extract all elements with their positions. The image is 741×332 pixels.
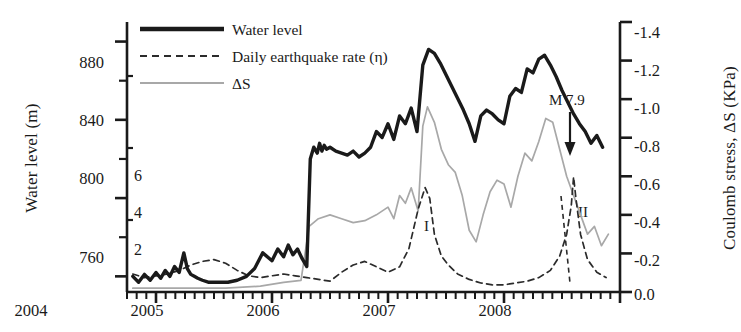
plot-canvas xyxy=(0,0,741,332)
axis-lines xyxy=(127,22,620,292)
figure-water-level-coulomb-stress: Water level (m) Coulomb stress, ΔS (KPa)… xyxy=(0,0,741,332)
tick-marks xyxy=(115,22,632,303)
magnitude-arrow-icon xyxy=(565,112,576,156)
curve-earthquake-rate xyxy=(133,177,606,285)
legend-swatches xyxy=(140,29,224,83)
annotation-peak-two-leader xyxy=(561,196,570,283)
curve-water-level xyxy=(133,49,603,282)
